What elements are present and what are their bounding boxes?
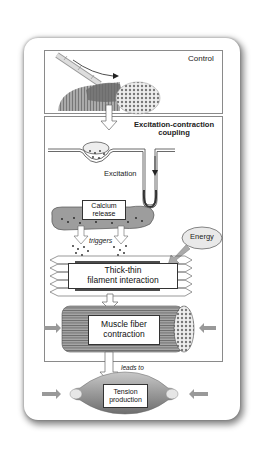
muscle-fiber-line2: contraction xyxy=(103,330,145,340)
compression-arrow-left-2 xyxy=(42,389,61,399)
tension-production-box: Tension production xyxy=(103,384,148,408)
calcium-release-line2: release xyxy=(93,210,116,218)
diagram-illustrations xyxy=(0,0,257,450)
tension-line2: production xyxy=(109,396,142,404)
tension-line1: Tension xyxy=(113,388,137,396)
calcium-release-line1: Calcium xyxy=(91,202,116,210)
energy-arrow xyxy=(168,245,190,265)
triggers-label: triggers xyxy=(89,237,112,245)
excitation-label: Excitation xyxy=(104,170,137,178)
compression-arrow-right-2 xyxy=(189,389,208,399)
muscle-fiber-contraction-box: Muscle fiber contraction xyxy=(88,315,160,345)
thick-thin-filament-box: Thick-thin filament interaction xyxy=(68,263,178,289)
leads-to-label: leads to xyxy=(121,364,144,371)
nerve-fiber-illustration xyxy=(57,55,100,84)
compression-arrow-left-1 xyxy=(44,323,61,333)
calcium-ions xyxy=(72,245,127,256)
calcium-release-box: Calcium release xyxy=(82,200,126,220)
thick-thin-line2: filament interaction xyxy=(87,276,158,286)
signal-arrowhead xyxy=(113,73,119,79)
compression-arrow-right-1 xyxy=(199,323,216,333)
energy-label: Energy xyxy=(189,233,215,241)
